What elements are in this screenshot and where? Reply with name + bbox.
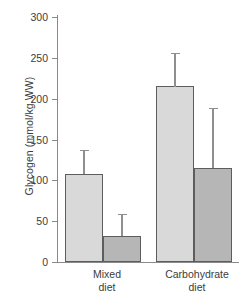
y-tick-label-50: 50 (36, 215, 48, 227)
x-axis-group-label-carb: Carbohydrate diet (151, 268, 243, 293)
plot-area (57, 17, 235, 262)
error-bar-line-carb-dark (212, 108, 213, 168)
error-bar-cap-mixed-light (80, 150, 89, 151)
y-tick-label-150: 150 (30, 134, 48, 146)
error-bar-cap-carb-light (171, 53, 180, 54)
y-tick-label-0: 0 (42, 256, 48, 268)
bar-mixed-light (65, 174, 103, 262)
x-axis-line (57, 262, 239, 263)
bar-chart: Glycogen (mmol/kg.WW) 0 50 100 150 200 2… (0, 0, 251, 299)
bar-carb-light (156, 86, 194, 262)
bar-carb-dark (194, 168, 232, 262)
x-axis-group-label-carb-line1: Carbohydrate (151, 268, 243, 281)
error-bar-line-mixed-light (83, 150, 84, 174)
bar-mixed-dark (103, 236, 141, 262)
y-tick-label-200: 200 (30, 93, 48, 105)
x-axis-group-label-carb-line2: diet (151, 281, 243, 294)
x-axis-group-label-mixed: Mixed diet (65, 268, 149, 293)
error-bar-cap-carb-dark (209, 108, 218, 109)
error-bar-line-carb-light (174, 53, 175, 87)
y-axis-ticks: 0 50 100 150 200 250 300 (0, 0, 57, 299)
x-axis-group-label-mixed-line2: diet (65, 281, 149, 294)
y-tick-label-250: 250 (30, 52, 48, 64)
y-tick-label-300: 300 (30, 11, 48, 23)
error-bar-line-mixed-dark (121, 214, 122, 236)
error-bar-cap-mixed-dark (118, 214, 127, 215)
y-tick-label-100: 100 (30, 174, 48, 186)
x-axis-group-label-mixed-line1: Mixed (65, 268, 149, 281)
